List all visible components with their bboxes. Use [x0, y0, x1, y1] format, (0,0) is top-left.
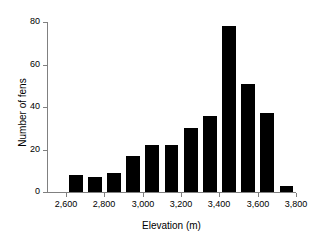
- y-axis-tick-label: 80: [14, 17, 40, 26]
- x-axis-tick-label: 3,000: [123, 199, 163, 209]
- histogram-bar: [260, 113, 274, 192]
- x-axis-tick-label: 3,400: [199, 199, 239, 209]
- x-axis-title: Elevation (m): [47, 220, 296, 231]
- x-axis-tick: [143, 193, 144, 197]
- histogram-bar: [126, 156, 140, 192]
- y-axis-tick: [43, 150, 47, 151]
- plot-area: 020406080 2,6002,8003,0003,2003,4003,600…: [0, 0, 317, 244]
- histogram-chart: 020406080 2,6002,8003,0003,2003,4003,600…: [0, 0, 317, 244]
- histogram-bar: [203, 116, 217, 193]
- histogram-bar: [184, 128, 198, 192]
- x-axis-tick: [258, 193, 259, 197]
- y-axis-line: [47, 22, 48, 193]
- histogram-bar: [241, 84, 255, 192]
- histogram-bar: [88, 177, 102, 192]
- x-axis-tick: [104, 193, 105, 197]
- y-axis-tick: [43, 107, 47, 108]
- y-axis-title: Number of fens: [17, 53, 28, 173]
- histogram-bar: [69, 175, 83, 192]
- histogram-bar: [165, 145, 179, 192]
- x-axis-tick-label: 2,600: [46, 199, 86, 209]
- y-axis-tick: [43, 192, 47, 193]
- y-axis-tick: [43, 65, 47, 66]
- histogram-bar: [145, 145, 159, 192]
- x-axis-tick: [181, 193, 182, 197]
- x-axis-tick-label: 3,200: [161, 199, 201, 209]
- y-axis-tick-label-wrap: 0: [12, 187, 40, 196]
- histogram-bar: [107, 173, 121, 192]
- histogram-bar: [280, 186, 294, 192]
- x-axis-tick: [296, 193, 297, 197]
- x-axis-tick-label: 3,600: [238, 199, 278, 209]
- x-axis-tick-label: 2,800: [84, 199, 124, 209]
- x-axis-tick: [66, 193, 67, 197]
- histogram-bar: [222, 26, 236, 192]
- x-axis-tick: [219, 193, 220, 197]
- y-axis-tick-label-wrap: 80: [12, 17, 40, 26]
- x-axis-tick-label: 3,800: [276, 199, 316, 209]
- y-axis-tick-label: 0: [14, 187, 40, 196]
- y-axis-tick: [43, 22, 47, 23]
